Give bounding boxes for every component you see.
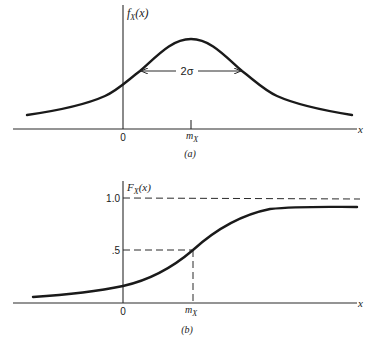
figure: 2σ fX(x) 0 mX x (a) FX(x) 1.0 .5 0 mX x … (0, 0, 379, 349)
x-axis-label-a: x (357, 123, 363, 135)
y-axis-label-a: fX(x) (127, 6, 149, 22)
caption-b: (b) (181, 324, 193, 336)
caption-a: (a) (184, 148, 196, 160)
panel-b-cdf: FX(x) 1.0 .5 0 mX x (b) (13, 181, 363, 336)
origin-label-b: 0 (120, 306, 126, 317)
mean-label-b: mX (185, 304, 198, 318)
x-axis-label-b: x (357, 297, 363, 309)
origin-label-a: 0 (120, 132, 126, 143)
pdf-curve (27, 39, 352, 115)
panel-a-pdf: 2σ fX(x) 0 mX x (a) (13, 5, 363, 160)
tick-label-one: 1.0 (106, 193, 120, 204)
y-axis-label-b: FX(x) (126, 181, 151, 196)
mean-label-a: mX (186, 130, 199, 144)
width-label: 2σ (181, 65, 194, 77)
one-reference-line (123, 198, 360, 199)
tick-label-half: .5 (112, 245, 121, 256)
cdf-curve (33, 207, 357, 297)
